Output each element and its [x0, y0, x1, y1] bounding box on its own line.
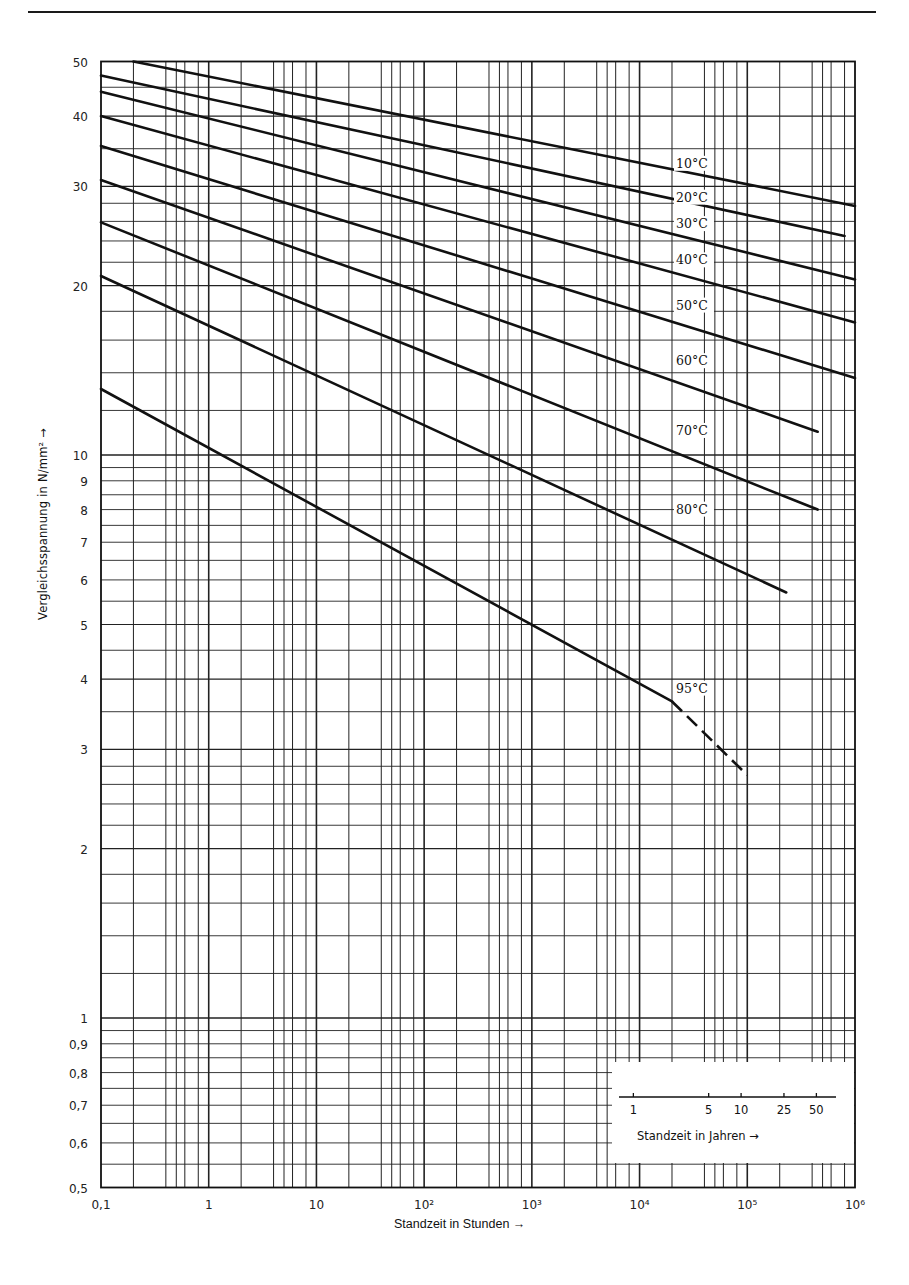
x-axis-label: Standzeit in Stunden → [394, 1217, 525, 1231]
x-tick-label: 10⁴ [630, 1198, 650, 1212]
y-tick-label: 9 [80, 475, 88, 489]
x-tick-label: 10³ [522, 1198, 542, 1212]
y-tick-label: 2 [80, 843, 88, 857]
curve-label: 70°C [676, 423, 708, 438]
curve-30c [101, 92, 855, 280]
x-tick-label: 10⁵ [737, 1198, 757, 1212]
years-tick-label: 25 [777, 1103, 792, 1117]
y-tick-label: 0,6 [69, 1137, 88, 1151]
curve-20c [101, 76, 845, 236]
y-tick-label: 50 [73, 56, 88, 70]
curve-label: 20°C [676, 190, 708, 205]
y-tick-label: 6 [80, 574, 88, 588]
y-tick-label: 0,5 [69, 1182, 88, 1196]
y-tick-label: 0,7 [69, 1099, 88, 1113]
curve-label: 60°C [676, 353, 708, 368]
creep-rupture-chart: 10°C20°C30°C40°C50°C60°C70°C80°C95°C0,50… [0, 0, 909, 1285]
years-axis-label: Standzeit in Jahren → [637, 1129, 759, 1143]
curve-label: 30°C [676, 216, 708, 231]
y-tick-label: 40 [73, 110, 88, 124]
y-tick-label: 0,8 [69, 1067, 88, 1081]
curve-label: 80°C [676, 502, 708, 517]
years-tick-label: 1 [630, 1103, 637, 1117]
y-tick-label: 3 [80, 743, 88, 757]
y-tick-label: 20 [73, 280, 88, 294]
y-tick-label: 4 [80, 673, 88, 687]
curve-label: 40°C [676, 252, 708, 267]
curve-95c [101, 389, 672, 701]
curve-label: 50°C [676, 298, 708, 313]
x-tick-label: 10² [414, 1198, 434, 1212]
y-tick-label: 10 [73, 449, 88, 463]
y-axis-label: Vergleichsspannung in N/mm² → [36, 428, 50, 620]
years-tick-label: 50 [809, 1103, 824, 1117]
x-tick-label: 1 [205, 1198, 213, 1212]
years-tick-label: 5 [705, 1103, 712, 1117]
x-tick-label: 0,1 [91, 1198, 110, 1212]
curve-95c-extrapolated [672, 701, 747, 775]
x-tick-label: 10 [309, 1198, 324, 1212]
years-tick-label: 10 [734, 1103, 749, 1117]
y-tick-label: 7 [80, 536, 88, 550]
y-tick-label: 1 [80, 1012, 88, 1026]
x-tick-label: 10⁶ [845, 1198, 865, 1212]
y-tick-label: 0,9 [69, 1038, 88, 1052]
y-tick-label: 30 [73, 180, 88, 194]
y-tick-label: 8 [80, 504, 88, 518]
curve-label: 10°C [676, 156, 708, 171]
y-tick-label: 5 [80, 619, 88, 633]
curve-label: 95°C [676, 681, 708, 696]
